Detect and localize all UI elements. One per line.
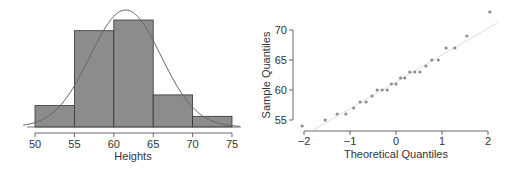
qq-point — [445, 46, 448, 49]
qq-point — [413, 70, 416, 73]
histogram-bar — [74, 31, 113, 127]
qq-point — [390, 82, 393, 85]
qq-point — [399, 76, 402, 79]
qq-point — [376, 88, 379, 91]
qq-y-tick-label: 60 — [275, 84, 287, 96]
histogram-bar — [114, 20, 153, 127]
qq-point — [424, 64, 427, 67]
histogram-x-tick-label: 55 — [68, 138, 80, 150]
qq-point — [336, 112, 339, 115]
histogram-x-tick-label: 50 — [29, 138, 41, 150]
qq-x-tick-label: 1 — [439, 135, 445, 147]
qq-point — [453, 46, 456, 49]
qq-y-axis-title: Sample Quantiles — [260, 31, 272, 118]
qq-point — [365, 100, 368, 103]
histogram-bar — [35, 106, 74, 127]
qq-point — [370, 94, 373, 97]
qq-point — [403, 76, 406, 79]
qq-point — [488, 10, 491, 13]
histogram-x-tick-label: 75 — [226, 138, 238, 150]
qq-point — [344, 112, 347, 115]
histogram-chart: 505560657075 — [23, 10, 241, 150]
histogram-x-tick-label: 65 — [147, 138, 159, 150]
qq-y-tick-label: 65 — [275, 54, 287, 66]
histogram-x-axis-title: Heights — [114, 150, 152, 162]
qq-point — [359, 100, 362, 103]
qq-x-tick-label: −1 — [344, 135, 357, 147]
qq-point — [381, 88, 384, 91]
qq-y-tick-label: 55 — [275, 114, 287, 126]
qq-x-tick-label: −2 — [298, 135, 311, 147]
qq-point — [430, 58, 433, 61]
qq-point — [394, 82, 397, 85]
qq-point — [408, 70, 411, 73]
qq-point — [437, 58, 440, 61]
qq-point — [418, 70, 421, 73]
qq-point — [386, 88, 389, 91]
histogram-x-tick-label: 70 — [186, 138, 198, 150]
qq-plot-chart: 55606570−2−1012 — [275, 10, 497, 147]
figure: 505560657075 55606570−2−1012 Heights The… — [0, 0, 521, 169]
qq-point — [301, 124, 304, 127]
qq-x-axis-title: Theoretical Quantiles — [344, 148, 448, 160]
histogram-x-tick-label: 60 — [108, 138, 120, 150]
qq-x-tick-label: 2 — [485, 135, 491, 147]
qq-point — [324, 118, 327, 121]
qq-point — [465, 34, 468, 37]
qq-point — [352, 106, 355, 109]
qq-y-tick-label: 70 — [275, 24, 287, 36]
qq-x-tick-label: 0 — [393, 135, 399, 147]
